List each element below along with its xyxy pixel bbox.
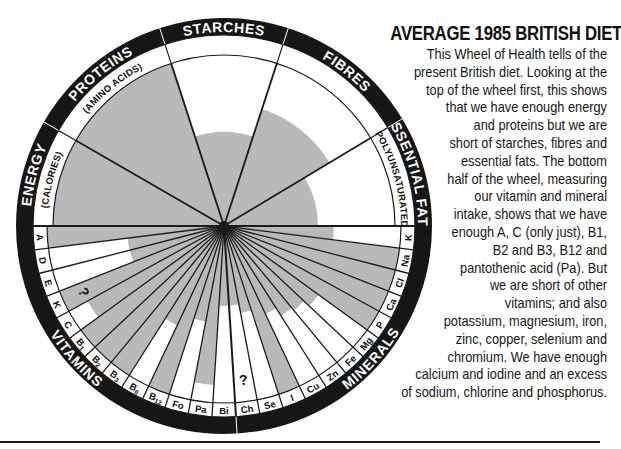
diagram-title: AVERAGE 1985 BRITISH DIET	[390, 22, 607, 45]
description-line: calcium and iodine and an excess	[337, 366, 607, 384]
description-line: of sodium, chlorine and phosphorus.	[337, 384, 607, 402]
description-line: pantothenic acid (Pa). But	[337, 260, 607, 278]
description-text: This Wheel of Health tells of thepresent…	[307, 46, 607, 402]
description-line: half of the wheel, measuring	[337, 171, 607, 189]
unknown-marker-icon: ?	[238, 371, 249, 388]
nutrient-label-bi: Bi	[219, 405, 229, 416]
nutrient-label-i: I	[289, 392, 296, 403]
horizontal-rule	[0, 441, 600, 443]
description-line: that we have enough energy	[337, 99, 607, 117]
description-line: short of starches, fibres and	[337, 135, 607, 153]
description-line: vitamins; and also	[337, 295, 607, 313]
description-line: intake, shows that we have	[337, 206, 607, 224]
description-line: we are short of other	[337, 277, 607, 295]
description-line: essential fats. The bottom	[337, 153, 607, 171]
description-line: present British diet. Looking at the	[337, 64, 607, 82]
nutrient-label-ch: Ch	[240, 403, 254, 416]
label-starches: STARCHES	[181, 19, 266, 39]
description-line: enough A, C (only just), B1,	[337, 224, 607, 242]
nutrient-label-pa: Pa	[194, 403, 208, 415]
description-line: chromium. We have enough	[337, 349, 607, 367]
description-line: our vitamin and mineral	[337, 188, 607, 206]
description-line: potassium, magnesium, iron,	[337, 313, 607, 331]
nutrient-label-se: Se	[263, 398, 277, 412]
description-line: B2 and B3, B12 and	[337, 242, 607, 260]
nutrient-label-k: K	[51, 299, 64, 310]
nutrient-label-fo: Fo	[171, 398, 185, 412]
description-line: top of the wheel first, this shows	[337, 82, 607, 100]
description-line: This Wheel of Health tells of the	[337, 46, 607, 64]
description-line: zinc, copper, selenium and	[337, 331, 607, 349]
nutrient-label-a: A	[34, 234, 45, 242]
nutrient-label-e: E	[42, 278, 54, 287]
description-line: and proteins but we are	[337, 117, 607, 135]
nutrient-label-d: D	[37, 256, 49, 265]
